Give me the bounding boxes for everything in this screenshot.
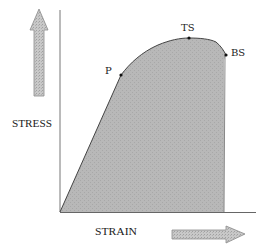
x-axis-label: STRAIN [95, 226, 137, 237]
point-bs-marker [224, 53, 227, 56]
stress-strain-area [60, 38, 226, 213]
point-p-marker [119, 73, 122, 76]
strain-right-arrow-icon [172, 226, 245, 243]
fracture-line [224, 56, 225, 213]
point-ts-marker [187, 36, 190, 39]
point-p-label: P [105, 65, 112, 76]
point-bs-label: BS [231, 47, 245, 58]
y-axis-label: STRESS [12, 118, 52, 129]
stress-strain-diagram: P TS BS STRESS STRAIN [0, 0, 266, 250]
point-ts-label: TS [181, 22, 195, 33]
stress-up-arrow-icon [30, 9, 48, 96]
